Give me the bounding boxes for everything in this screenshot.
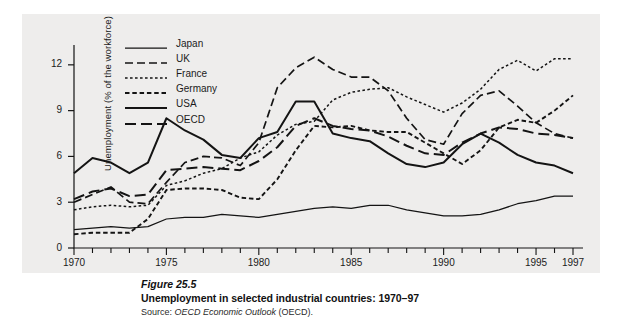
legend-item-germany: Germany <box>125 82 217 97</box>
legend-item-japan: Japan <box>125 36 217 51</box>
legend-label: OECD <box>176 115 205 125</box>
series-line-japan <box>74 196 573 230</box>
legend-label: France <box>176 69 207 79</box>
x-tick-label: 1980 <box>239 257 279 268</box>
figure-source: Source: OECD Economic Outlook (OECD). <box>141 306 581 319</box>
legend-label: Japan <box>176 39 203 49</box>
legend-item-uk: UK <box>125 51 217 66</box>
figure-title: Unemployment in selected industrial coun… <box>141 291 581 305</box>
legend-swatch-oecd <box>125 115 167 125</box>
x-tick-label: 1997 <box>553 257 593 268</box>
x-tick-label: 1975 <box>146 257 186 268</box>
legend-item-oecd: OECD <box>125 112 217 127</box>
chart-panel: Unemployment (% of the workforce) 036912… <box>22 14 600 273</box>
legend-swatch-usa <box>125 99 167 109</box>
legend-item-usa: USA <box>125 97 217 112</box>
y-axis-title: Unemployment (% of the workforce) <box>102 4 113 184</box>
y-tick-label: 9 <box>36 104 62 115</box>
legend-swatch-france <box>125 69 167 79</box>
y-tick-label: 12 <box>36 58 62 69</box>
source-suffix: (OECD). <box>276 307 313 317</box>
x-tick-label: 1970 <box>54 257 94 268</box>
chart-legend: JapanUKFranceGermanyUSAOECD <box>125 36 217 127</box>
y-tick-label: 0 <box>36 242 62 253</box>
legend-swatch-germany <box>125 84 167 94</box>
legend-item-france: France <box>125 66 217 81</box>
figure-container: Unemployment (% of the workforce) 036912… <box>0 0 622 333</box>
legend-swatch-uk <box>125 54 167 64</box>
legend-label: USA <box>176 99 197 109</box>
figure-caption: Figure 25.5 Unemployment in selected ind… <box>141 278 581 319</box>
source-publication: OECD Economic Outlook <box>175 307 277 317</box>
x-tick-label: 1995 <box>516 257 556 268</box>
x-tick-label: 1985 <box>331 257 371 268</box>
x-tick-label: 1990 <box>424 257 464 268</box>
legend-label: Germany <box>176 84 217 94</box>
y-tick-label: 3 <box>36 196 62 207</box>
legend-label: UK <box>176 54 190 64</box>
legend-swatch-japan <box>125 39 167 49</box>
y-tick-label: 6 <box>36 150 62 161</box>
figure-number: Figure 25.5 <box>141 278 581 291</box>
source-prefix: Source: <box>141 307 175 317</box>
